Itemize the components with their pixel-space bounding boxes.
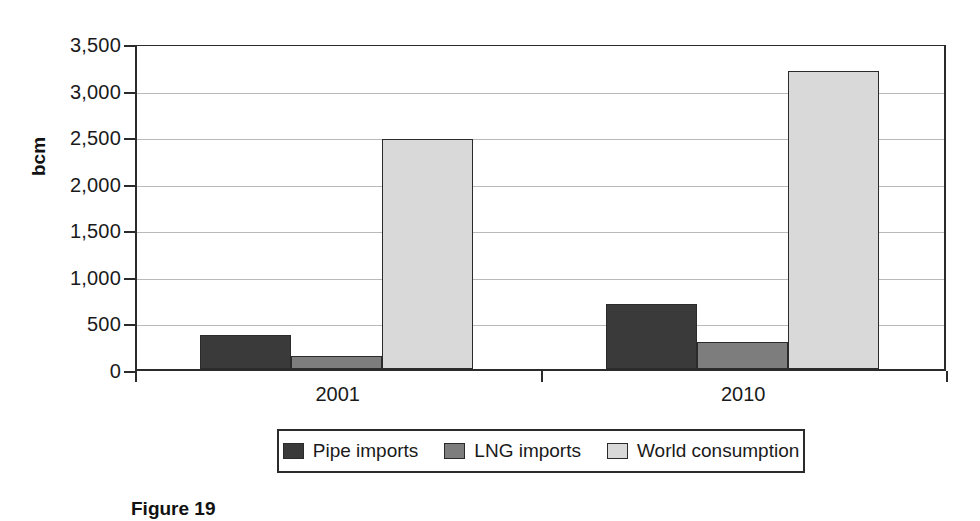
figure-19: bcm 05001,0001,5002,0002,5003,0003,500 2… [0,0,980,521]
x-tick-mark [135,371,137,382]
y-tick-mark [124,371,135,373]
y-tick-label: 3,000 [70,81,121,104]
legend-label-lng-imports: LNG imports [474,440,581,462]
legend-swatch-lng-imports [444,443,465,459]
bar-2001-lng-imports [291,356,382,369]
y-tick-label: 2,000 [70,174,121,197]
plot-area [135,45,946,371]
y-tick-mark [124,278,135,280]
x-tick-mark [541,371,543,382]
bar-2001-pipe-imports [200,335,291,369]
y-axis: bcm 05001,0001,5002,0002,5003,0003,500 [0,0,135,421]
legend: Pipe imports LNG imports World consumpti… [277,429,805,473]
y-tick-mark [124,138,135,140]
legend-label-pipe-imports: Pipe imports [313,440,419,462]
bar-2010-world-consumption [788,71,879,369]
legend-label-world-consumption: World consumption [637,440,799,462]
bar-2010-lng-imports [697,342,788,369]
y-tick-mark [124,92,135,94]
legend-swatch-pipe-imports [283,443,304,459]
y-tick-mark [124,185,135,187]
legend-item-lng-imports: LNG imports [444,440,581,462]
bars-layer [137,46,944,369]
y-tick-label: 3,500 [70,34,121,57]
y-tick-mark [124,45,135,47]
y-tick-label: 1,500 [70,220,121,243]
figure-caption: Figure 19 [131,498,215,520]
y-axis-title: bcm [28,137,50,176]
bar-2001-world-consumption [382,139,473,369]
legend-swatch-world-consumption [607,443,628,459]
y-tick-mark [124,231,135,233]
legend-item-pipe-imports: Pipe imports [283,440,419,462]
bar-2010-pipe-imports [606,304,697,369]
y-tick-label: 2,500 [70,127,121,150]
legend-item-world-consumption: World consumption [607,440,799,462]
y-tick-mark [124,324,135,326]
y-tick-label: 1,000 [70,267,121,290]
x-axis-label-2010: 2010 [721,383,766,406]
x-axis-label-2001: 2001 [316,383,361,406]
y-tick-label: 500 [87,313,121,336]
y-tick-label: 0 [110,360,121,383]
x-tick-mark [946,371,948,382]
